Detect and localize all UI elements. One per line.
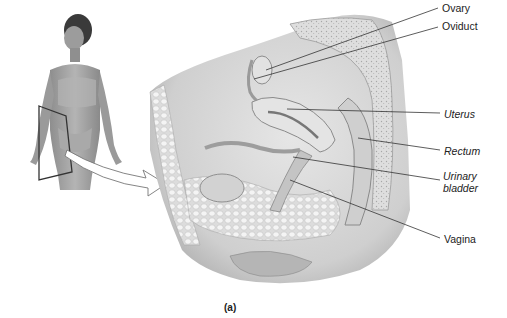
figure: Ovary Oviduct Uterus Rectum Urinary blad… (0, 0, 507, 318)
label-uterus: Uterus (444, 108, 475, 120)
label-urinary: Urinary (443, 170, 477, 182)
label-ovary: Ovary (442, 2, 470, 14)
anatomy-illustration (0, 0, 507, 318)
label-vagina: Vagina (444, 233, 476, 245)
label-rectum: Rectum (444, 145, 480, 157)
pelvic-section (150, 15, 410, 284)
figure-caption: (a) (224, 302, 236, 313)
label-oviduct: Oviduct (442, 20, 478, 32)
label-bladder: bladder (443, 182, 478, 194)
